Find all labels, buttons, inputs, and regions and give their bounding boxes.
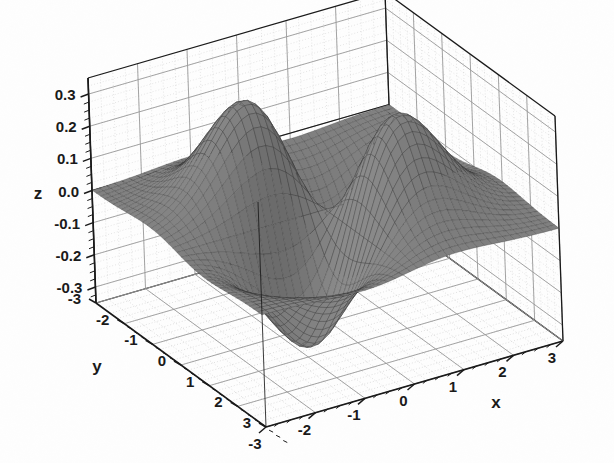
tick-label: 1 xyxy=(186,373,194,390)
tick-label: 2 xyxy=(214,393,222,410)
tick-label: 0.2 xyxy=(56,118,77,135)
tick-label: 1 xyxy=(449,378,457,395)
tick-label: -0.2 xyxy=(55,247,81,264)
plot-canvas: -3-2-101233210-1-2-30.30.20.10.0-0.1-0.2… xyxy=(0,0,614,463)
tick-label: 0 xyxy=(158,352,166,369)
surface-plot-figure: -3-2-101233210-1-2-30.30.20.10.0-0.1-0.2… xyxy=(0,0,614,463)
tick-label: -0.3 xyxy=(57,279,83,296)
tick-label: -2 xyxy=(96,311,109,328)
z-axis-title: z xyxy=(34,184,43,203)
tick-label: 3 xyxy=(548,349,556,366)
tick-label: -2 xyxy=(298,421,311,438)
tick-label: 3 xyxy=(243,414,251,431)
y-axis-title: y xyxy=(92,357,102,376)
tick-label: 0.1 xyxy=(57,150,78,167)
tick-label: -0.1 xyxy=(54,215,80,232)
tick-label: -3 xyxy=(248,435,261,452)
tick-label: 2 xyxy=(498,363,506,380)
tick-label: 0.0 xyxy=(58,183,79,200)
tick-label: 0 xyxy=(399,392,407,409)
x-axis-title: x xyxy=(491,393,501,412)
tick-label: -1 xyxy=(124,331,137,348)
tick-label: -1 xyxy=(347,406,360,423)
tick-label: 0.3 xyxy=(55,86,76,103)
